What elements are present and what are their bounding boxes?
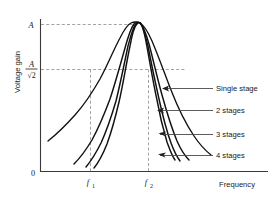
origin-label: 0	[31, 169, 35, 178]
y-axis-title: Voltage gain	[13, 51, 22, 93]
y-tick-label-half-numerator: A	[28, 60, 35, 69]
chart-canvas: Single stage 2 stages 3 stages 4 stages …	[0, 0, 279, 197]
curve-3-stages	[86, 22, 180, 167]
frequency-response-figure: Single stage 2 stages 3 stages 4 stages …	[0, 0, 279, 197]
legend-label-4-stages: 4 stages	[216, 151, 245, 160]
x-axis-title: Frequency	[219, 180, 255, 189]
curve-4-stages	[94, 22, 175, 168]
x-tick-label-f2-base: f	[145, 178, 149, 187]
legend-label-2-stages: 2 stages	[216, 106, 245, 115]
y-tick-label-half-denominator: √2	[27, 71, 35, 80]
y-tick-label-peak: A	[27, 21, 34, 30]
x-tick-label-f2-subscript: 2	[150, 183, 153, 189]
legend-label-single-stage: Single stage	[216, 84, 258, 93]
legend-label-3-stages: 3 stages	[216, 130, 245, 139]
x-tick-label-f1-base: f	[87, 178, 91, 187]
x-tick-label-f1-subscript: 1	[92, 183, 95, 189]
